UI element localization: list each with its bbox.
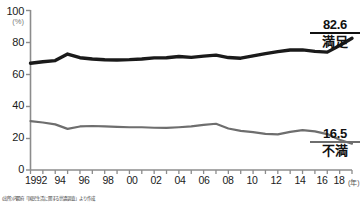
- axis-lines: [31, 10, 353, 170]
- x-axis-unit-label: (年): [348, 177, 360, 187]
- x-tick-label-94: 94: [48, 174, 72, 186]
- x-tick-label-10: 10: [240, 174, 264, 186]
- series-line-dissatisfied: [31, 121, 353, 143]
- x-tick-label-14: 14: [288, 174, 312, 186]
- annotation-satisfied: 82.6 満足: [310, 18, 360, 49]
- annotation-dissatisfied-value: 16.5: [310, 127, 360, 140]
- x-tick-label-12: 12: [264, 174, 288, 186]
- x-tick-label-04: 04: [168, 174, 192, 186]
- x-tick-label-18: 18: [329, 174, 349, 186]
- x-tick-label-08: 08: [216, 174, 240, 186]
- x-tick-label-00: 00: [120, 174, 144, 186]
- chart-container: 100 (%) 80 60 40 20 0 1992 94 96 98 00 0…: [0, 0, 362, 205]
- annotation-satisfied-value: 82.6: [310, 18, 360, 31]
- annotation-satisfied-term: 満足: [310, 35, 360, 49]
- annotation-dissatisfied-term: 不満: [310, 144, 360, 158]
- annotation-dissatisfied: 16.5 不満: [310, 127, 360, 158]
- x-tick-label-02: 02: [144, 174, 168, 186]
- x-tick-label-98: 98: [96, 174, 120, 186]
- series-line-satisfied: [31, 38, 353, 63]
- x-tick-label-06: 06: [192, 174, 216, 186]
- source-note: (出所)内閣府「国民生活に関する世論調査」より作成: [2, 195, 94, 201]
- x-tick-label-96: 96: [72, 174, 96, 186]
